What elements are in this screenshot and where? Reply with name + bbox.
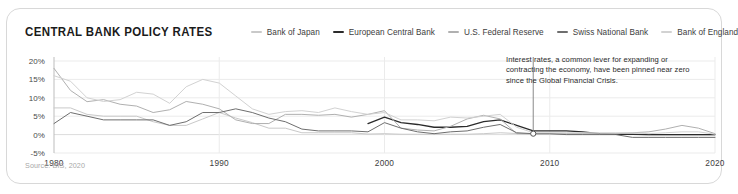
y-axis-tick-label: -5% [19, 149, 45, 158]
x-axis-tick-label: 1990 [210, 158, 229, 168]
x-axis-tick-label: 2000 [375, 158, 394, 168]
y-axis-tick-label: 5% [19, 112, 45, 121]
annotation-marker-dot [531, 131, 536, 136]
chart-card: CENTRAL BANK POLICY RATES Bank of JapanE… [6, 8, 722, 184]
chart-plot-area: 20%15%10%5%0%-5%19801990200020102020 [7, 9, 723, 185]
x-axis-tick-label: 2020 [705, 158, 724, 168]
chart-source-note: Source: BIS, 2020 [25, 161, 85, 170]
y-axis-tick-label: 15% [19, 75, 45, 84]
chart-annotation-text: Interest rates, a common lever for expan… [506, 55, 701, 86]
line-chart-svg [7, 9, 723, 185]
x-axis-tick-label: 2010 [540, 158, 559, 168]
y-axis-tick-label: 20% [19, 57, 45, 66]
y-axis-tick-label: 0% [19, 130, 45, 139]
y-axis-tick-label: 10% [19, 93, 45, 102]
